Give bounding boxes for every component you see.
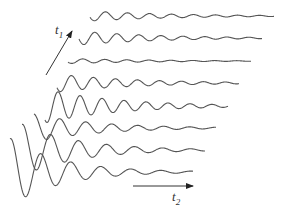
t2-axis-label: t2 xyxy=(172,189,180,207)
trace-plot xyxy=(0,0,284,214)
fid-trace-5 xyxy=(45,92,228,123)
fid-trace-2 xyxy=(79,32,262,44)
fid-trace-4 xyxy=(57,76,239,92)
fid-stack-diagram: t1 t2 xyxy=(0,0,284,214)
fid-trace-7 xyxy=(22,124,205,170)
t1-axis-label: t1 xyxy=(55,22,63,40)
fid-trace-1 xyxy=(90,12,274,21)
fid-trace-6 xyxy=(34,114,216,139)
trace-group xyxy=(10,12,274,197)
fid-trace-3 xyxy=(68,59,251,63)
